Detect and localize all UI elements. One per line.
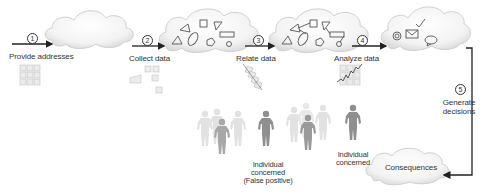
consequences-label: Consequences xyxy=(378,163,444,172)
cloud-collected-data xyxy=(159,9,258,53)
cloud-empty xyxy=(45,11,133,49)
step-1-number: 1 xyxy=(27,33,38,44)
step-5-number: 5 xyxy=(455,84,466,95)
people-group-false-positive xyxy=(197,109,274,154)
target-caption-line2: concerned xyxy=(333,158,373,167)
chain-data-icon xyxy=(243,64,262,90)
step-1-label: Provide addresses xyxy=(9,52,74,61)
step-3-label: Relate data xyxy=(236,54,276,63)
address-grid-icon xyxy=(20,65,40,85)
analysis-chart-icon xyxy=(337,64,362,85)
false-positive-caption-line3: (False positive) xyxy=(236,176,300,185)
scattered-data-icon xyxy=(130,66,162,93)
step-4-number: 4 xyxy=(357,35,368,46)
step-2-label: Collect data xyxy=(129,54,170,63)
step-4-label: Analyze data xyxy=(334,54,379,63)
step-2-number: 2 xyxy=(142,35,153,46)
people-group-true-target xyxy=(286,103,361,150)
step-5-label-line1: Generate xyxy=(440,98,478,107)
cloud-communications xyxy=(381,7,470,51)
step-3-number: 3 xyxy=(253,35,264,46)
step-5-label-line2: decisions xyxy=(440,107,478,116)
